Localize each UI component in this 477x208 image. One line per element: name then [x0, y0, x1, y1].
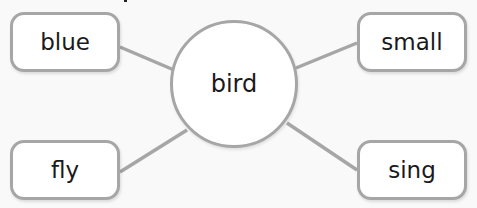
connector-fly	[120, 130, 187, 172]
center-node-bird: bird	[170, 20, 298, 148]
node-fly: fly	[10, 140, 120, 200]
connector-small	[296, 43, 357, 68]
node-label: fly	[51, 157, 79, 183]
word-web-diagram: blue small fly sing bird	[0, 0, 477, 208]
node-sing: sing	[357, 140, 467, 200]
center-label: bird	[211, 70, 258, 98]
connector-sing	[287, 123, 357, 170]
node-blue: blue	[10, 12, 120, 72]
node-small: small	[357, 12, 467, 72]
node-label: small	[381, 29, 442, 55]
node-label: blue	[40, 29, 90, 55]
node-label: sing	[388, 157, 436, 183]
connector-blue	[120, 47, 174, 70]
